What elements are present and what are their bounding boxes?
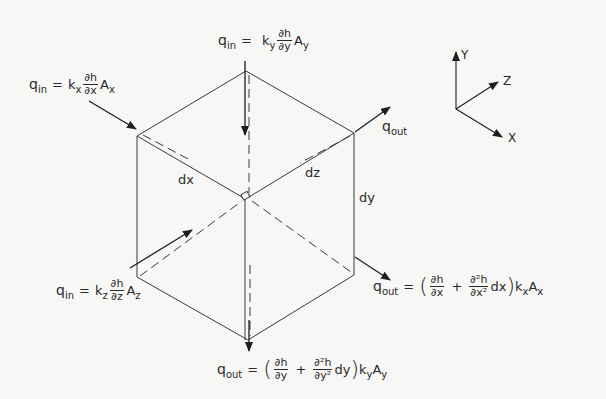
arrow-qin-x <box>89 101 136 129</box>
edge-label-dz: dz <box>305 166 320 179</box>
equation-qin-x: qin = kx ∂h∂x Ax <box>29 72 115 96</box>
equation-qout-z: qout <box>382 118 407 134</box>
cube-edge-bottom-right <box>248 275 354 340</box>
flow-arrows <box>89 61 390 351</box>
cube-edge-mid-left <box>137 136 242 197</box>
edge-label-dy: dy <box>359 191 375 204</box>
equation-qout-y: qout = ( ∂h∂y + ∂²h∂y² dy ) ky Ay <box>217 357 387 381</box>
cube-edge-bottom-left <box>137 277 248 340</box>
axis-x <box>456 109 502 137</box>
axis-z <box>456 82 498 109</box>
edge-label-dx: dx <box>178 173 194 186</box>
cube-edge-top-right <box>246 71 354 133</box>
arrow-qin-z <box>130 230 192 268</box>
axis-y-label: Y <box>461 48 468 62</box>
equation-qout-x: qout = ( ∂h∂x + ∂²h∂x² dx ) kx Ax <box>373 274 543 298</box>
equation-qin-y: qin = ky ∂h∂y Ay <box>218 28 309 52</box>
equation-qin-z: qin = kz ∂h∂z Az <box>56 278 141 302</box>
cube-diagram <box>0 0 606 399</box>
cube-edge-top-left <box>137 71 246 136</box>
axis-x-label: X <box>508 131 516 145</box>
axis-z-label: Z <box>503 74 511 88</box>
coordinate-axes <box>456 52 502 137</box>
cube-edge-mid-right <box>249 133 354 197</box>
